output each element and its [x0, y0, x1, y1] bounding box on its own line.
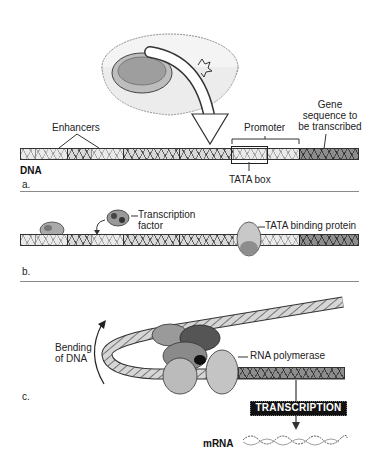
mrna-label: mRNA	[203, 438, 234, 449]
panel-c-letter: c.	[22, 391, 30, 402]
mrna-strand-icon	[243, 432, 348, 448]
bending-label-line2: of DNA	[55, 353, 92, 364]
tata-box-pointer-line	[247, 162, 251, 172]
bending-of-dna-label: Bending of DNA	[55, 342, 92, 364]
panel-b-letter: b.	[22, 266, 30, 277]
rna-polymerase-pointer-line	[238, 355, 250, 359]
promoter-bracket	[231, 136, 301, 146]
tata-box-label: TATA box	[229, 174, 271, 185]
panel-a-letter: a.	[22, 179, 30, 190]
curved-arrow-icon	[140, 40, 230, 150]
gene-label-line3: be transcribed	[298, 121, 362, 132]
tf-label-line2: factor	[138, 220, 195, 231]
promoter-label: Promoter	[244, 122, 285, 133]
transcription-factor-label: Transcription factor	[138, 209, 195, 231]
bending-label-line1: Bending	[55, 342, 92, 353]
gene-label-line1: Gene	[298, 99, 362, 110]
dna-strand-c-gene	[238, 367, 345, 379]
transcription-box: TRANSCRIPTION	[250, 401, 347, 416]
dna-strand-a	[20, 148, 359, 160]
enhancers-label: Enhancers	[52, 122, 100, 133]
divider-a	[20, 191, 359, 192]
divider-b	[20, 281, 359, 282]
gene-sequence-label: Gene sequence to be transcribed	[298, 99, 362, 132]
dna-label: DNA	[20, 165, 42, 176]
tf-label-line1: Transcription	[138, 209, 195, 220]
dna-strand-b	[20, 234, 359, 246]
rna-polymerase-label: RNA polymerase	[250, 350, 325, 361]
tata-binding-protein-label: TATA binding protein	[265, 220, 356, 231]
gene-label-line2: sequence to	[298, 110, 362, 121]
transcription-complex-icon	[140, 320, 250, 400]
